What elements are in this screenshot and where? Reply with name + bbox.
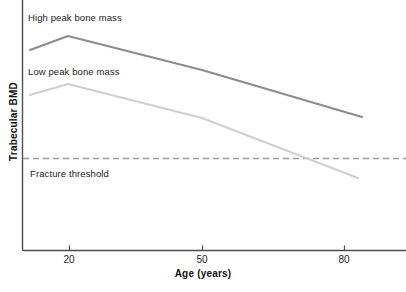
bmd-age-chart: High peak bone mass Low peak bone mass F… (0, 0, 406, 292)
annotation-low-peak-bone-mass: Low peak bone mass (28, 66, 120, 77)
series-line-low-peak-bone-mass (30, 84, 358, 178)
y-axis-title: Trabecular BMD (8, 62, 19, 182)
x-tick-label-50: 50 (196, 254, 207, 265)
x-tick-label-80: 80 (338, 254, 349, 265)
x-axis-title: Age (years) (0, 268, 406, 279)
annotation-high-peak-bone-mass: High peak bone mass (28, 12, 122, 23)
annotation-fracture-threshold: Fracture threshold (30, 168, 109, 179)
x-tick-label-20: 20 (63, 254, 74, 265)
chart-plot-area (0, 0, 406, 292)
